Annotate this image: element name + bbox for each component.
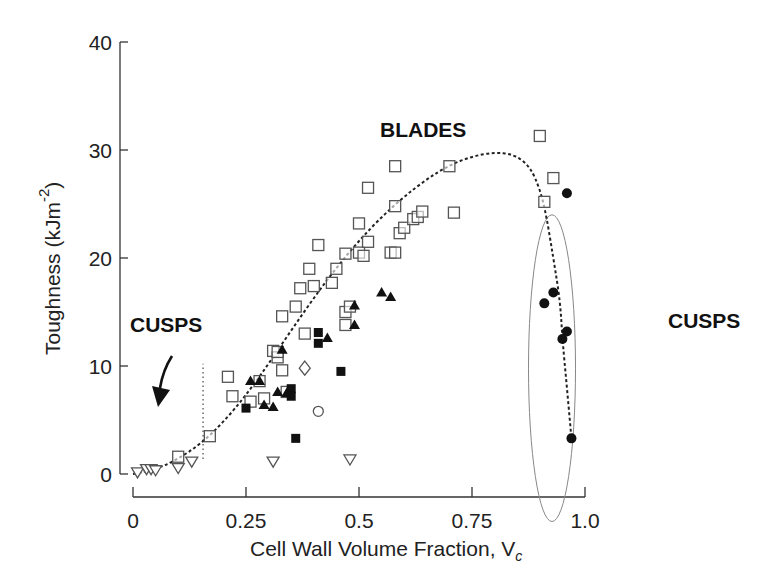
data-point-square-open bbox=[448, 207, 459, 218]
cusps-annotation-left: CUSPS bbox=[130, 313, 202, 336]
y-tick-label: 40 bbox=[89, 31, 112, 54]
data-point-square-open bbox=[222, 371, 233, 382]
data-point-circle-filled bbox=[548, 288, 558, 298]
data-point-circle-filled bbox=[566, 433, 576, 443]
y-axis-title: Toughness (kJm-2) bbox=[35, 182, 64, 355]
data-point-square-open bbox=[326, 277, 337, 288]
data-point-circle-filled bbox=[539, 298, 549, 308]
blades-annotation: BLADES bbox=[380, 118, 466, 141]
x-tick-label: 0.25 bbox=[226, 509, 267, 532]
data-point-square-open bbox=[331, 263, 342, 274]
data-point-square-open bbox=[227, 391, 238, 402]
data-point-square-open bbox=[340, 248, 351, 259]
cusps-ellipse bbox=[529, 215, 576, 522]
data-point-square-open bbox=[173, 451, 184, 462]
data-point-square-open bbox=[354, 218, 365, 229]
data-point-square-filled bbox=[314, 339, 323, 348]
x-tick-label: 0 bbox=[127, 509, 139, 532]
data-point-square-open bbox=[304, 263, 315, 274]
cusps-annotation-right: CUSPS bbox=[668, 309, 740, 332]
y-tick-label: 0 bbox=[100, 463, 112, 486]
curved-arrow-icon bbox=[160, 356, 172, 388]
x-axis-title: Cell Wall Volume Fraction, Vc bbox=[250, 537, 522, 564]
data-point-square-open bbox=[295, 283, 306, 294]
data-point-square-open bbox=[534, 130, 545, 141]
data-point-square-open bbox=[299, 328, 310, 339]
data-point-square-open bbox=[363, 182, 374, 193]
y-tick-label: 10 bbox=[89, 355, 112, 378]
data-point-square-open bbox=[548, 173, 559, 184]
data-point-square-open bbox=[444, 161, 455, 172]
data-point-square-open bbox=[539, 196, 550, 207]
data-points bbox=[132, 130, 577, 477]
data-point-triangle-down-open bbox=[172, 464, 184, 474]
data-point-square-open bbox=[390, 201, 401, 212]
data-point-circle-filled bbox=[562, 188, 572, 198]
data-point-square-filled bbox=[291, 434, 300, 443]
data-point-square-open bbox=[277, 311, 288, 322]
data-point-square-open bbox=[363, 236, 374, 247]
x-tick-label: 1.0 bbox=[570, 509, 599, 532]
data-point-square-open bbox=[290, 301, 301, 312]
y-tick-label: 20 bbox=[89, 247, 112, 270]
svg-text:Toughness (kJm-2): Toughness (kJm-2) bbox=[35, 182, 64, 355]
data-point-square-open bbox=[417, 206, 428, 217]
y-tick-label: 30 bbox=[89, 139, 112, 162]
data-point-square-filled bbox=[336, 367, 345, 376]
arrowhead-icon bbox=[152, 386, 170, 407]
data-point-square-open bbox=[313, 240, 324, 251]
data-point-square-open bbox=[390, 161, 401, 172]
data-point-triangle-down-open bbox=[267, 457, 279, 467]
x-tick-label: 0.5 bbox=[344, 509, 373, 532]
data-point-square-open bbox=[277, 365, 288, 376]
data-point-circle-filled bbox=[562, 326, 572, 336]
toughness-scatter-chart: 01020304000.250.50.751.0 BLADES CUSPS CU… bbox=[0, 0, 763, 579]
data-point-square-open bbox=[358, 250, 369, 261]
axes: 01020304000.250.50.751.0 bbox=[89, 31, 600, 532]
data-point-square-filled bbox=[314, 328, 323, 337]
data-point-square-filled bbox=[287, 392, 296, 401]
data-point-square-filled bbox=[242, 404, 251, 413]
data-point-triangle-down-open bbox=[186, 457, 198, 467]
data-point-triangle-down-open bbox=[344, 455, 356, 465]
data-point-diamond-open bbox=[299, 361, 310, 375]
x-tick-label: 0.75 bbox=[452, 509, 493, 532]
data-point-triangle-filled bbox=[376, 287, 387, 297]
data-point-circle-open bbox=[313, 406, 323, 416]
data-point-triangle-down-open bbox=[132, 468, 144, 478]
data-point-triangle-filled bbox=[322, 332, 333, 342]
data-point-square-open bbox=[308, 281, 319, 292]
data-point-square-open bbox=[204, 431, 215, 442]
data-point-square-open bbox=[390, 247, 401, 258]
